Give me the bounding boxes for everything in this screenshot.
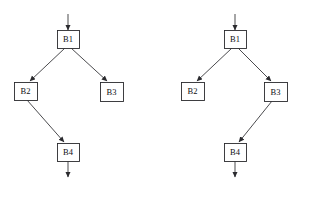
block-label-b2: B2 [188, 86, 198, 96]
control-flow-graph-canvas: B1B2B3B4B1B2B3B4 [0, 0, 310, 197]
block-label-b3: B3 [271, 87, 281, 97]
edge-b3-to-b4 [239, 101, 272, 142]
edge-b1-to-b3 [71, 48, 107, 81]
figure-root: B1B2B3B4B1B2B3B4 [0, 0, 310, 197]
block-label-b1: B1 [230, 34, 240, 44]
block-label-b4: B4 [63, 147, 74, 157]
block-label-b1: B1 [63, 34, 73, 44]
block-label-b2: B2 [21, 86, 31, 96]
block-label-b3: B3 [107, 87, 117, 97]
block-label-b4: B4 [230, 147, 241, 157]
left-control-flow-graph: B1B2B3B4 [15, 14, 124, 177]
right-control-flow-graph: B1B2B3B4 [182, 14, 288, 177]
edge-b1-to-b2 [30, 48, 65, 81]
clipped-caption-text [0, 186, 310, 195]
edge-b1-to-b2 [197, 48, 232, 81]
edge-b1-to-b3 [238, 48, 271, 81]
edge-b2-to-b4 [27, 100, 64, 142]
